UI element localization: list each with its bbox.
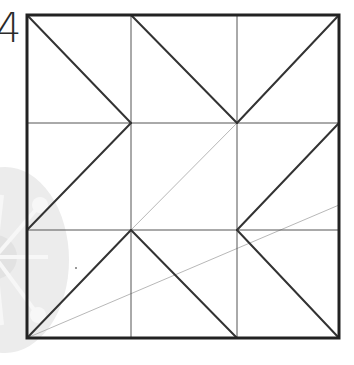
bold-diagonal [131,230,237,338]
small-dot [75,267,77,269]
bold-diagonal [27,230,131,338]
bold-diagonal [131,15,237,123]
faint-line [131,123,237,230]
faint-line [27,205,339,338]
grid-diagram [0,0,354,365]
bold-diagonals [27,15,339,338]
bold-diagonal [27,123,131,230]
bold-diagonal [237,123,339,230]
bold-diagonal [27,15,131,123]
bold-diagonal [237,15,339,123]
bold-diagonal [237,230,339,338]
